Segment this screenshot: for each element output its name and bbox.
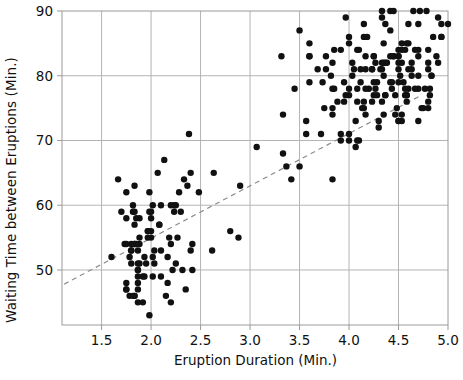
- data-point: [115, 176, 121, 182]
- data-point: [130, 209, 136, 215]
- data-point: [405, 66, 411, 72]
- data-point: [331, 47, 337, 53]
- data-point: [425, 47, 431, 53]
- data-point: [354, 137, 360, 143]
- data-point: [404, 98, 410, 104]
- data-point: [346, 137, 352, 143]
- data-point: [404, 40, 410, 46]
- data-point: [405, 21, 411, 27]
- data-point: [155, 170, 161, 176]
- data-point: [237, 183, 243, 189]
- data-point: [306, 53, 312, 59]
- data-point: [227, 228, 233, 234]
- data-point: [187, 170, 193, 176]
- data-point: [123, 241, 129, 247]
- data-point: [118, 209, 124, 215]
- data-point: [438, 34, 444, 40]
- data-point: [404, 92, 410, 98]
- data-point: [171, 209, 177, 215]
- data-point: [196, 189, 202, 195]
- data-point: [372, 60, 378, 66]
- data-point: [135, 247, 141, 253]
- data-point: [318, 131, 324, 137]
- data-point: [135, 286, 141, 292]
- data-point: [435, 60, 441, 66]
- data-point: [158, 202, 164, 208]
- data-point: [135, 267, 141, 273]
- data-point: [321, 105, 327, 111]
- data-point: [382, 92, 388, 98]
- data-point: [164, 254, 170, 260]
- data-point: [346, 85, 352, 91]
- data-point: [425, 60, 431, 66]
- data-point: [211, 170, 217, 176]
- data-point: [130, 293, 136, 299]
- scatter-chart-figure: 1.52.02.53.03.54.04.55.05060708090 Waiti…: [0, 0, 463, 380]
- data-point: [158, 247, 164, 253]
- data-point: [349, 60, 355, 66]
- data-point: [417, 8, 423, 14]
- data-point: [151, 260, 157, 266]
- data-point: [253, 144, 259, 150]
- data-point: [346, 40, 352, 46]
- data-point: [387, 79, 393, 85]
- data-point: [420, 105, 426, 111]
- data-point: [435, 14, 441, 20]
- data-point: [323, 53, 329, 59]
- data-point: [352, 144, 358, 150]
- data-point: [399, 60, 405, 66]
- data-point: [126, 254, 132, 260]
- data-point: [374, 79, 380, 85]
- data-point: [130, 202, 136, 208]
- y-tick-label: 60: [36, 197, 53, 213]
- data-point: [306, 79, 312, 85]
- data-point: [133, 241, 139, 247]
- data-point: [369, 98, 375, 104]
- data-point: [150, 254, 156, 260]
- data-point: [288, 176, 294, 182]
- data-point: [395, 118, 401, 124]
- data-point: [410, 8, 416, 14]
- data-point: [168, 241, 174, 247]
- data-point: [357, 79, 363, 85]
- data-point: [173, 260, 179, 266]
- data-point: [146, 312, 152, 318]
- data-point: [176, 189, 182, 195]
- data-point: [338, 47, 344, 53]
- data-point: [314, 66, 320, 72]
- x-tick-label: 3.0: [239, 332, 260, 348]
- data-point: [123, 280, 129, 286]
- data-point: [189, 267, 195, 273]
- data-point: [187, 247, 193, 253]
- data-point: [387, 8, 393, 14]
- data-point: [280, 150, 286, 156]
- data-point: [342, 92, 348, 98]
- data-point: [141, 254, 147, 260]
- data-point: [150, 273, 156, 279]
- data-point: [425, 66, 431, 72]
- data-point: [408, 60, 414, 66]
- data-point: [136, 260, 142, 266]
- data-point: [392, 111, 398, 117]
- data-point: [390, 53, 396, 59]
- data-point: [158, 273, 164, 279]
- data-point: [405, 85, 411, 91]
- data-point: [141, 273, 147, 279]
- data-point: [291, 85, 297, 91]
- data-point: [423, 8, 429, 14]
- data-point: [150, 202, 156, 208]
- x-axis-title: Eruption Duration (Min.): [62, 352, 449, 368]
- data-point: [283, 163, 289, 169]
- data-point: [306, 40, 312, 46]
- data-point: [351, 66, 357, 72]
- data-point: [296, 27, 302, 33]
- data-point: [425, 98, 431, 104]
- data-point: [169, 267, 175, 273]
- data-point: [341, 98, 347, 104]
- data-point: [168, 299, 174, 305]
- data-point: [372, 85, 378, 91]
- data-point: [135, 280, 141, 286]
- data-point: [428, 73, 434, 79]
- data-point: [338, 131, 344, 137]
- data-point: [131, 221, 137, 227]
